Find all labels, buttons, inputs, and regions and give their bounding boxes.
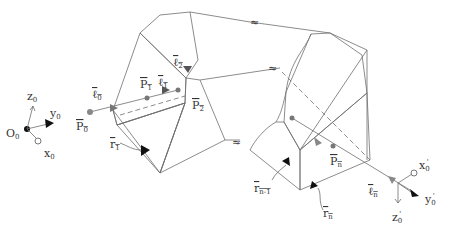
point-pn [331, 144, 336, 149]
axis-x0-label: x0 [44, 147, 55, 161]
point-p1 [145, 96, 150, 101]
point-p0 [87, 109, 93, 115]
ray-arrow-2 [183, 66, 192, 73]
label-l1: ℓ1 [158, 76, 168, 90]
normal-arrows [120, 143, 323, 210]
axis-z0-label: z0 [27, 90, 37, 104]
last-prism [250, 33, 370, 190]
label-pn: Pn [330, 155, 342, 169]
point-p1b [176, 88, 181, 93]
end-frame [395, 170, 419, 203]
label-rn: rn [323, 207, 333, 221]
label-ln: ℓn [368, 185, 378, 199]
diagram-canvas: ≈ ≈ ≈ [0, 0, 450, 235]
label-l2: ℓ2 [173, 56, 183, 70]
break-symbol-low: ≈ [232, 136, 241, 149]
label-p2: P2 [192, 99, 204, 113]
point-pn-1 [290, 116, 295, 121]
axis-y0-label: y0 [49, 107, 61, 121]
axis-x0p-label: x0' [419, 158, 430, 173]
axis-z0p-label: z0' [392, 210, 402, 225]
label-p0: P0 [76, 120, 88, 134]
axis-y0p-label: y0' [424, 192, 436, 207]
label-l0: ℓ0 [92, 88, 102, 102]
ray-arrow-n [388, 176, 396, 184]
break-symbol-top: ≈ [250, 16, 259, 29]
hidden-ray [282, 72, 370, 160]
label-p1: P1 [140, 78, 152, 92]
ray-path [87, 66, 410, 190]
break-symbol-mid: ≈ [268, 62, 277, 75]
label-rn-1: rn-1 [254, 182, 271, 196]
ray-arrow-n-1 [314, 137, 322, 146]
label-r1: r1 [110, 138, 120, 152]
origin-label: O0 [6, 127, 20, 141]
